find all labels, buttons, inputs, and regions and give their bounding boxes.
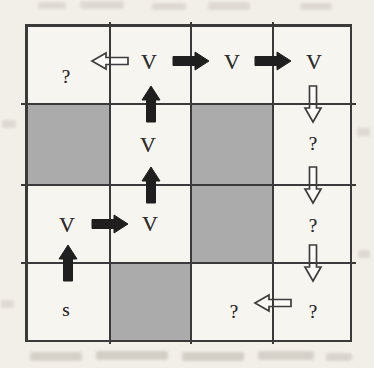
arrow-up-icon	[141, 85, 161, 123]
grid-line	[350, 24, 353, 342]
scan-artifact	[30, 352, 82, 361]
scan-artifact	[38, 2, 66, 9]
scan-artifact	[152, 3, 186, 10]
arrow-up-icon	[141, 166, 161, 204]
grid-line	[25, 24, 28, 342]
cell-label-r1c1: V	[140, 134, 156, 156]
scan-artifact	[96, 351, 168, 360]
grid-line	[109, 22, 111, 344]
scan-artifact	[1, 300, 14, 308]
cell-label-r2c3: ?	[309, 216, 317, 235]
grid-line	[21, 184, 356, 186]
cell-r3c1	[110, 263, 191, 342]
cell-label-r2c1: V	[142, 213, 158, 235]
cell-label-r0c0: ?	[62, 67, 70, 86]
cell-label-r3c2: ?	[230, 302, 238, 321]
arrow-right-icon	[254, 51, 292, 71]
cell-label-r0c1: V	[141, 51, 157, 73]
scan-artifact	[326, 353, 352, 361]
arrow-up-icon	[58, 244, 78, 282]
cell-label-r1c3: ?	[309, 134, 317, 153]
scan-artifact	[182, 352, 244, 361]
scan-artifact	[357, 128, 370, 136]
grid-line	[25, 24, 352, 27]
scan-artifact	[358, 250, 370, 258]
cell-label-r3c3: ?	[309, 302, 317, 321]
scan-artifact	[208, 2, 250, 10]
arrow-right-icon	[172, 51, 210, 71]
grid: ? V V V V ? V V ? s ? ?	[25, 24, 352, 342]
cell-label-r2c0: V	[59, 214, 75, 236]
cell-label-r0c2: V	[224, 51, 240, 73]
grid-line	[21, 103, 356, 105]
cell-label-r0c3: V	[306, 51, 322, 73]
scan-artifact	[300, 3, 332, 10]
cell-r2c2	[191, 185, 273, 263]
scan-artifact	[2, 120, 16, 128]
cell-r1c0	[25, 104, 110, 185]
scan-artifact	[258, 351, 314, 360]
scan-artifact	[80, 1, 124, 9]
cell-label-r3c0-start: s	[62, 300, 69, 319]
grid-line	[25, 340, 352, 343]
arrow-right-icon	[91, 214, 129, 234]
scanned-figure-page: { "figure": { "type": "grid-search-diagr…	[0, 0, 374, 368]
cell-r1c2	[191, 104, 273, 185]
